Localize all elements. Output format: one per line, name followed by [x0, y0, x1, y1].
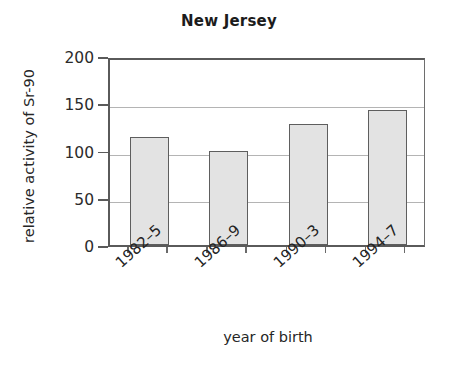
plot-area	[108, 58, 425, 247]
y-axis-tick-labels: 050100150200	[0, 58, 108, 247]
y-axis-tick	[98, 104, 108, 106]
y-axis-tick	[98, 199, 108, 201]
y-axis-tick-label: 50	[74, 191, 94, 209]
chart-figure: New Jersey relative activity of Sr-90 05…	[0, 0, 458, 366]
y-axis-tick-label: 100	[64, 144, 94, 162]
x-axis-tick	[166, 247, 168, 253]
x-axis-tick	[245, 247, 247, 253]
y-axis-tick-label: 200	[64, 49, 94, 67]
y-axis-tick	[98, 152, 108, 154]
x-axis-tick	[325, 247, 327, 253]
x-axis-tick	[404, 247, 406, 253]
y-axis-tick	[98, 246, 108, 248]
y-axis-tick	[98, 57, 108, 59]
y-axis-tick-label: 0	[84, 238, 94, 256]
chart-title: New Jersey	[0, 12, 458, 30]
y-axis-tick-label: 150	[64, 96, 94, 114]
gridline	[110, 107, 424, 108]
x-axis-title: year of birth	[108, 329, 428, 345]
